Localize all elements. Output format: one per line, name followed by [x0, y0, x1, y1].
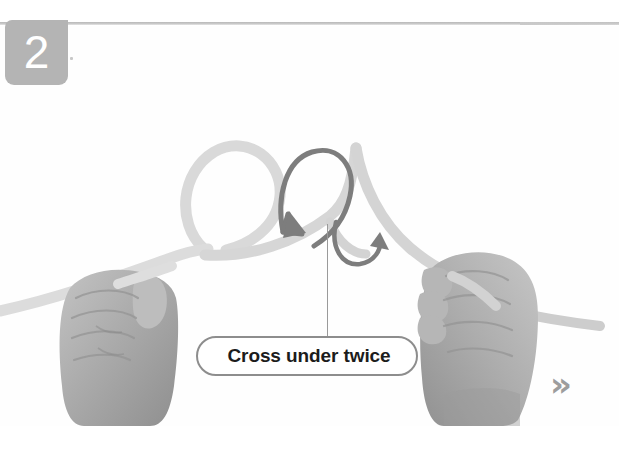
step-number-badge: 2 [5, 20, 68, 85]
caption-label: Cross under twice [198, 338, 420, 374]
instruction-step-page: 2 Cross under twice » [0, 0, 619, 450]
next-chevron-icon[interactable]: » [550, 368, 604, 400]
step-number-label: 2 [5, 20, 68, 85]
badge-tick-mark [70, 57, 73, 60]
right-hand [418, 252, 538, 426]
header-divider-fade [520, 22, 619, 25]
left-hand [60, 270, 179, 426]
caption-pill: Cross under twice [196, 336, 418, 376]
caption-leader-line [327, 224, 328, 336]
